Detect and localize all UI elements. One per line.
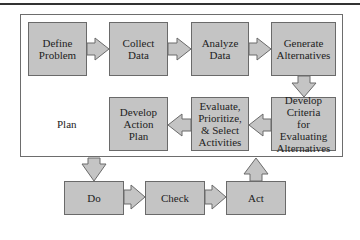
arrow-up-icon	[244, 158, 268, 181]
step-check: Check	[145, 181, 205, 215]
step-act: Act	[226, 181, 286, 215]
step-evaluate-prioritize-select: Evaluate, Prioritize, & Select Activitie…	[191, 97, 249, 151]
step-develop-criteria: Develop Criteria for Evaluating Alternat…	[271, 97, 336, 151]
arrow-right-icon	[205, 185, 226, 209]
step-define-problem: Define Problem	[28, 22, 87, 76]
arrow-right-icon	[124, 185, 145, 209]
step-develop-action-plan: Develop Action Plan	[109, 97, 168, 151]
step-collect-data: Collect Data	[109, 22, 168, 76]
step-generate-alternatives: Generate Alternatives	[271, 22, 336, 76]
arrow-right-icon	[249, 38, 271, 60]
arrow-right-icon	[168, 38, 191, 60]
arrow-down-icon	[82, 158, 106, 181]
step-analyze-data: Analyze Data	[191, 22, 249, 76]
arrow-left-icon	[249, 114, 271, 136]
step-do: Do	[64, 181, 124, 215]
arrow-left-icon	[168, 114, 191, 136]
arrow-right-icon	[87, 38, 109, 60]
